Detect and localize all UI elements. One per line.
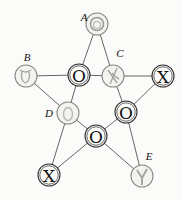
node-e[interactable] — [131, 165, 153, 187]
node-top-right[interactable]: X — [152, 65, 174, 87]
node-right-inner[interactable]: O — [115, 101, 137, 123]
o-mark: O — [72, 66, 86, 86]
node-top-left-inner[interactable]: O — [68, 64, 90, 86]
node-c[interactable] — [102, 65, 124, 87]
label-b: B — [24, 51, 31, 63]
label-a: A — [80, 11, 88, 23]
node-bottom-inner[interactable]: O — [85, 125, 107, 147]
x-mark: X — [157, 67, 170, 87]
node-a[interactable] — [86, 13, 108, 35]
node-d[interactable] — [57, 102, 79, 124]
label-c: C — [116, 47, 124, 59]
board-edges — [26, 24, 163, 176]
o-mark: O — [89, 127, 103, 147]
node-b[interactable] — [15, 65, 37, 87]
pentagram-board: A B O C X D O O X — [0, 0, 182, 200]
o-mark: O — [119, 103, 133, 123]
label-d: D — [44, 107, 53, 119]
node-bottom-left[interactable]: X — [38, 164, 60, 186]
label-e: E — [145, 150, 153, 162]
x-mark: X — [43, 166, 56, 186]
